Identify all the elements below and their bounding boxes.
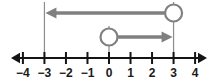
axis-tick-label-6: 2 xyxy=(149,66,156,80)
axis-arrow-left-icon xyxy=(11,53,20,63)
number-line-svg: −4−3−2−101234 xyxy=(0,0,218,81)
axis-tick-label-1: −3 xyxy=(38,66,52,80)
lower-ray xyxy=(101,29,173,46)
lower-ray-open-circle-endpoint xyxy=(101,29,118,46)
axis-tick-label-7: 3 xyxy=(170,66,177,80)
axis-tick-labels: −4−3−2−101234 xyxy=(16,66,199,80)
axis-tick-label-3: −1 xyxy=(81,66,95,80)
upper-ray-open-circle-endpoint xyxy=(165,5,182,22)
axis-tick-label-8: 4 xyxy=(192,66,199,80)
upper-ray xyxy=(45,5,182,22)
axis-tick-label-4: 0 xyxy=(106,66,113,80)
axis-arrow-right-icon xyxy=(198,53,207,63)
upper-ray-arrow-left-icon xyxy=(45,7,56,18)
number-line-figure: −4−3−2−101234 xyxy=(0,0,218,81)
axis-tick-label-2: −2 xyxy=(59,66,73,80)
lower-ray-arrow-right-icon xyxy=(162,31,173,42)
axis-tick-label-0: −4 xyxy=(16,66,30,80)
axis xyxy=(11,52,207,64)
axis-tick-label-5: 1 xyxy=(127,66,134,80)
